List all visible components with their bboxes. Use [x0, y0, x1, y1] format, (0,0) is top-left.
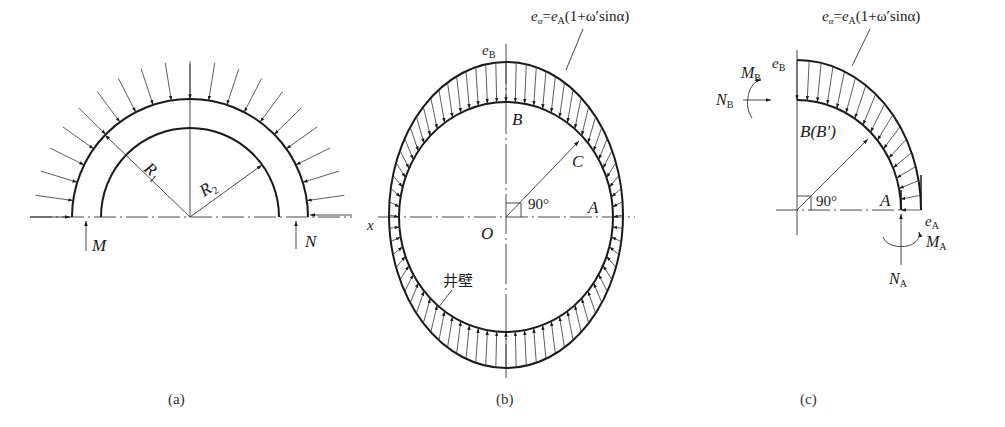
- pressure-arrow: [41, 171, 77, 182]
- pressure-arrow: [391, 237, 401, 242]
- pressure-arrow: [534, 67, 537, 106]
- pressure-arrow: [227, 69, 239, 105]
- pressure-arrow: [431, 98, 437, 129]
- pressure-arrow: [613, 202, 623, 207]
- pressure-arrow: [165, 63, 171, 101]
- label-ea: eA: [925, 213, 940, 231]
- pressure-arrow: [431, 305, 437, 332]
- pressure-arrow: [575, 98, 581, 129]
- panel-c: eα=eA(1+ω′sinα) eB MB NB B(B′) 90° A eA …: [715, 8, 947, 408]
- pressure-arrow: [118, 78, 135, 112]
- pressure-arrow: [846, 78, 856, 113]
- pressure-arrow: [575, 305, 581, 332]
- pressure-arrow: [296, 148, 330, 165]
- pressure-arrow: [551, 76, 555, 113]
- pressure-arrow: [582, 107, 589, 136]
- caption-b: (b): [496, 391, 514, 408]
- pressure-arrow: [609, 175, 619, 187]
- pressure-arrow: [400, 266, 409, 280]
- pressure-arrow: [260, 92, 283, 123]
- label-point-a-c: A: [879, 191, 891, 210]
- pressure-arrow: [582, 298, 589, 323]
- pressure-arrow: [410, 283, 418, 303]
- pressure-arrow: [416, 291, 424, 313]
- label-eb-c: eB: [772, 55, 786, 73]
- pressure-arrow: [594, 283, 602, 303]
- pressure-arrow: [897, 167, 916, 179]
- pressure-arrow: [877, 115, 893, 140]
- label-point-a: A: [587, 198, 599, 217]
- label-m: M: [91, 236, 107, 255]
- pressure-arrow: [389, 202, 399, 207]
- pressure-arrow: [543, 325, 546, 359]
- pressure-arrow: [551, 321, 555, 354]
- pressure-arrow: [396, 256, 405, 267]
- formula-b: eα=eA(1+ω′sinα): [531, 8, 629, 26]
- pressure-arrow: [97, 92, 120, 123]
- pressure-arrow: [410, 127, 418, 151]
- pressure-arrow: [827, 67, 833, 105]
- pressure-arrow: [79, 108, 106, 135]
- pressure-arrow: [807, 61, 809, 101]
- pressure-arrow: [393, 247, 403, 255]
- label-point-c: C: [572, 152, 584, 171]
- panel-a: R1 R2 M N (a): [30, 61, 352, 408]
- pressure-arrow: [515, 63, 516, 103]
- pressure-arrow: [416, 117, 424, 143]
- pressure-arrow: [448, 83, 453, 118]
- pressure-arrow: [607, 163, 616, 178]
- figure-canvas: R1 R2 M N (a) eα=eA(1+ω′sinα) eB B C 90°…: [0, 0, 1005, 427]
- formula-leader-line-c: [852, 29, 870, 66]
- pressure-arrow: [423, 298, 430, 323]
- pressure-arrow: [611, 188, 621, 197]
- label-nb: NB: [715, 91, 734, 110]
- pressure-arrow: [286, 127, 317, 149]
- pressure-arrow: [889, 139, 907, 158]
- pressure-arrow: [457, 321, 461, 354]
- pressure-arrow: [389, 227, 399, 228]
- label-point-b: B: [512, 110, 523, 129]
- label-angle-c: 90°: [816, 193, 837, 209]
- pressure-arrow: [534, 328, 537, 363]
- label-origin: O: [481, 224, 493, 243]
- label-ma: MA: [925, 233, 947, 252]
- label-mb: MB: [740, 64, 761, 83]
- pressure-arrow: [560, 317, 565, 348]
- pressure-arrow: [496, 332, 497, 368]
- pressure-arrow: [588, 117, 596, 143]
- pressure-arrow: [405, 139, 414, 160]
- pressure-arrow: [486, 330, 488, 365]
- pressure-arrow: [567, 90, 573, 123]
- pressure-arrow: [457, 76, 461, 113]
- pressure-arrow: [899, 181, 919, 189]
- label-r2: R2: [195, 176, 221, 203]
- pressure-arrow: [611, 237, 621, 242]
- pressure-arrow: [391, 188, 401, 197]
- pressure-arrow: [400, 150, 409, 168]
- label-eb: eB: [482, 42, 496, 60]
- pressure-arrow: [515, 332, 516, 368]
- pressure-arrow: [209, 63, 215, 101]
- pressure-arrow: [466, 71, 469, 109]
- pressure-arrow: [36, 195, 74, 200]
- pressure-arrow: [274, 108, 301, 135]
- label-point-b-c: B(B′): [800, 122, 836, 141]
- pressure-arrow: [466, 325, 469, 359]
- pressure-arrow: [871, 104, 885, 132]
- pressure-arrow: [817, 63, 821, 102]
- wall-leader-line: [438, 290, 452, 308]
- caption-a: (a): [168, 391, 185, 408]
- pressure-arrow: [599, 275, 608, 292]
- pressure-arrow: [855, 85, 866, 118]
- pressure-arrow: [607, 256, 616, 267]
- pressure-arrow: [603, 150, 612, 168]
- pressure-arrow: [893, 153, 912, 168]
- pressure-arrow: [609, 247, 619, 255]
- moment-arrow-mb: [748, 80, 761, 118]
- pressure-arrow: [603, 266, 612, 280]
- pressure-arrow: [599, 139, 608, 160]
- caption-c: (c): [800, 391, 817, 408]
- label-n: N: [304, 232, 318, 251]
- panel-b: eα=eA(1+ω′sinα) eB B C 90° A O x 井壁 (b): [366, 8, 635, 408]
- pressure-arrow: [863, 94, 876, 125]
